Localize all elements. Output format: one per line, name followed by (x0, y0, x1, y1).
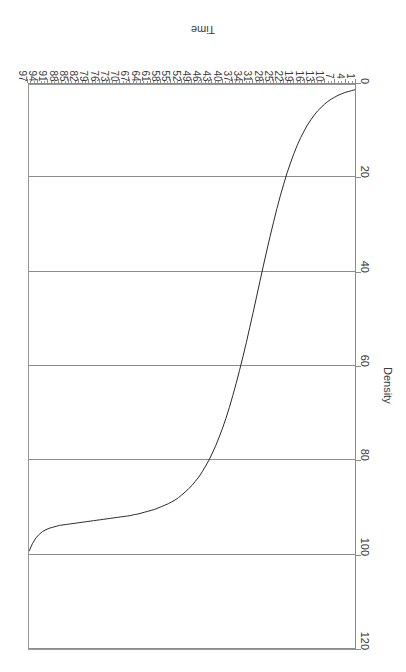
time-tick-label: 46 (191, 70, 202, 81)
time-minor-tick-71 (116, 81, 117, 83)
time-tick-label: 31 (243, 70, 254, 81)
time-minor-tick-81 (82, 81, 83, 83)
time-minor-tick-41 (218, 81, 219, 83)
time-minor-tick-36 (235, 81, 236, 83)
time-minor-tick-35 (239, 81, 240, 83)
time-minor-tick-62 (147, 81, 148, 83)
time-minor-tick-32 (249, 81, 250, 83)
time-minor-tick-45 (205, 81, 206, 83)
time-minor-tick-63 (143, 81, 144, 83)
time-minor-tick-53 (177, 81, 178, 83)
time-minor-tick-3 (348, 81, 349, 83)
time-tick-label: 7 (325, 73, 336, 79)
time-tick-label: 88 (48, 70, 59, 81)
time-minor-tick-57 (164, 81, 165, 83)
time-minor-tick-60 (153, 81, 154, 83)
time-minor-tick-66 (133, 81, 134, 83)
density-tick-label: 60 (359, 355, 371, 367)
time-tick-label: 4 (335, 73, 346, 79)
time-axis-title: Time (191, 24, 215, 36)
time-tick-label: 91 (38, 70, 49, 81)
time-minor-tick-14 (311, 81, 312, 83)
time-tick-label: 13 (304, 70, 315, 81)
time-tick-label: 79 (79, 70, 90, 81)
time-minor-tick-17 (300, 81, 301, 83)
time-minor-tick-26 (270, 81, 271, 83)
time-tick-label: 25 (263, 70, 274, 81)
time-tick-label: 73 (99, 70, 110, 81)
time-tick-label: 61 (140, 70, 151, 81)
time-minor-tick-77 (95, 81, 96, 83)
time-minor-tick-59 (157, 81, 158, 83)
time-minor-tick-30 (256, 81, 257, 83)
time-minor-tick-87 (61, 81, 62, 83)
time-minor-tick-95 (34, 81, 35, 83)
chart-rotation-wrapper: 020406080100120 Density 1471013161922252… (0, 0, 406, 672)
density-curve (29, 90, 355, 552)
time-minor-tick-68 (126, 81, 127, 83)
density-tick-label: 100 (359, 537, 371, 555)
time-tick-label: 97 (17, 70, 28, 81)
time-minor-tick-33 (246, 81, 247, 83)
time-tick-label: 64 (130, 70, 141, 81)
time-tick-label: 1 (345, 73, 356, 79)
density-axis-title: Density (382, 367, 394, 404)
time-tick-label: 34 (232, 70, 243, 81)
time-minor-tick-24 (276, 81, 277, 83)
time-minor-tick-96 (30, 81, 31, 83)
time-minor-tick-54 (174, 81, 175, 83)
time-minor-tick-20 (290, 81, 291, 83)
time-minor-tick-44 (208, 81, 209, 83)
time-minor-tick-56 (167, 81, 168, 83)
curve-svg (29, 85, 355, 649)
time-minor-tick-84 (71, 81, 72, 83)
time-minor-tick-86 (65, 81, 66, 83)
density-axis (355, 84, 356, 650)
time-tick-label: 67 (120, 70, 131, 81)
density-vs-time-chart: 020406080100120 Density 1471013161922252… (0, 0, 406, 672)
time-minor-tick-74 (106, 81, 107, 83)
time-minor-tick-6 (338, 81, 339, 83)
time-tick-label: 85 (58, 70, 69, 81)
time-tick-label: 52 (171, 70, 182, 81)
time-tick-label: 19 (284, 70, 295, 81)
time-minor-tick-5 (341, 81, 342, 83)
time-tick-1 (355, 79, 356, 83)
density-tick-label: 0 (359, 78, 371, 84)
time-minor-tick-72 (112, 81, 113, 83)
time-tick-label: 82 (68, 70, 79, 81)
density-tick-label: 80 (359, 449, 371, 461)
time-minor-tick-51 (184, 81, 185, 83)
time-tick-label: 58 (150, 70, 161, 81)
time-tick-label: 28 (253, 70, 264, 81)
time-minor-tick-69 (123, 81, 124, 83)
density-tick-label: 40 (359, 260, 371, 272)
time-minor-tick-93 (41, 81, 42, 83)
time-minor-tick-38 (229, 81, 230, 83)
time-tick-label: 94 (27, 70, 38, 81)
time-tick-label: 16 (294, 70, 305, 81)
density-tick-label: 120 (359, 632, 371, 650)
time-minor-tick-90 (51, 81, 52, 83)
time-minor-tick-11 (321, 81, 322, 83)
density-tick-label: 20 (359, 166, 371, 178)
time-tick-4 (345, 79, 346, 83)
time-minor-tick-12 (317, 81, 318, 83)
time-minor-tick-23 (280, 81, 281, 83)
time-minor-tick-48 (194, 81, 195, 83)
time-minor-tick-21 (287, 81, 288, 83)
time-minor-tick-18 (297, 81, 298, 83)
time-tick-label: 37 (222, 70, 233, 81)
time-minor-tick-83 (75, 81, 76, 83)
time-minor-tick-47 (198, 81, 199, 83)
time-minor-tick-50 (188, 81, 189, 83)
time-minor-tick-65 (136, 81, 137, 83)
time-minor-tick-27 (266, 81, 267, 83)
time-tick-label: 43 (202, 70, 213, 81)
time-minor-tick-89 (54, 81, 55, 83)
time-tick-label: 76 (89, 70, 100, 81)
time-minor-tick-92 (44, 81, 45, 83)
time-minor-tick-78 (92, 81, 93, 83)
time-minor-tick-42 (215, 81, 216, 83)
time-minor-tick-9 (328, 81, 329, 83)
